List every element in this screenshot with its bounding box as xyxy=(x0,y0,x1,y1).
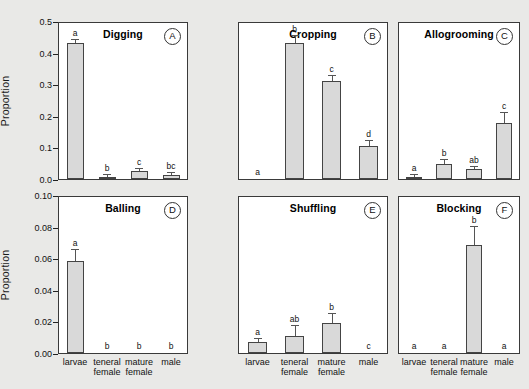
error-bar-cap xyxy=(71,39,79,40)
bar xyxy=(99,177,116,179)
bar xyxy=(436,164,452,179)
y-axis-tick-label: 0.2 xyxy=(39,112,52,122)
y-axis-tick-label: 0.04 xyxy=(34,286,52,296)
y-axis-label: Proportion xyxy=(0,250,11,300)
bar xyxy=(131,171,148,179)
error-bar-cap xyxy=(254,338,262,339)
y-axis-tick-label: 0.10 xyxy=(34,191,52,201)
error-bar xyxy=(171,173,172,175)
significance-letter: ab xyxy=(290,314,299,324)
significance-letter: c xyxy=(502,101,506,111)
error-bar-cap xyxy=(167,172,175,173)
y-axis-tick-label: 0.02 xyxy=(34,317,52,327)
panel-c: AllogroomingCababc xyxy=(398,22,520,180)
bar xyxy=(496,123,512,179)
error-bar-cap xyxy=(328,75,336,76)
y-axis-tick-label: 0.3 xyxy=(39,80,52,90)
error-bar-cap xyxy=(410,174,418,175)
y-axis-tick-label: 0.5 xyxy=(39,17,52,27)
error-bar xyxy=(295,36,296,43)
plot-area-c: ababc xyxy=(399,23,519,179)
significance-letter: a xyxy=(73,238,78,248)
significance-letter: d xyxy=(366,129,371,139)
panel-row-top: Proportion0.00.10.20.30.40.5DiggingAabcb… xyxy=(0,22,529,180)
error-bar xyxy=(474,167,475,169)
error-bar xyxy=(504,113,505,123)
y-axis-tick-label: 0.1 xyxy=(39,143,52,153)
error-bar xyxy=(444,160,445,164)
x-axis-tick-label: larvae xyxy=(402,357,427,367)
significance-letter: c xyxy=(137,157,141,167)
error-bar xyxy=(474,227,475,246)
significance-letter: a xyxy=(442,341,447,351)
error-bar xyxy=(295,326,296,335)
error-bar-cap xyxy=(103,174,111,175)
significance-letter: c xyxy=(329,64,333,74)
significance-letter: b xyxy=(105,341,110,351)
error-bar-cap xyxy=(470,166,478,167)
significance-letter: b xyxy=(137,341,142,351)
y-axis-tick-mark xyxy=(53,354,58,355)
x-axis-tick-label: male xyxy=(494,357,514,367)
y-axis-tick-label: 0.0 xyxy=(39,175,52,185)
x-axis-tick-label: teneralfemale xyxy=(281,357,309,377)
x-axis-tick-label: larvae xyxy=(245,357,270,367)
bar xyxy=(359,146,378,179)
plot-area-a: abcbc xyxy=(59,23,187,179)
bar xyxy=(322,81,341,179)
bar xyxy=(67,261,84,353)
significance-letter: b xyxy=(292,24,297,34)
bar xyxy=(67,43,84,179)
panel-a: DiggingAabcbc xyxy=(58,22,188,180)
y-axis-top: Proportion0.00.10.20.30.40.5 xyxy=(2,22,58,180)
y-axis-tick-label: 0.00 xyxy=(34,349,52,359)
significance-letter: b xyxy=(472,215,477,225)
error-bar-cap xyxy=(135,168,143,169)
error-bar-cap xyxy=(328,313,336,314)
x-axis-tick-label: teneralfemale xyxy=(430,357,458,377)
error-bar-cap xyxy=(440,159,448,160)
significance-letter: b xyxy=(442,148,447,158)
figure-canvas: Proportion0.00.10.20.30.40.5DiggingAabcb… xyxy=(0,0,529,389)
error-bar xyxy=(75,40,76,44)
significance-letter: b xyxy=(169,341,174,351)
error-bar xyxy=(107,175,108,176)
significance-letter: a xyxy=(255,327,260,337)
panel-e: ShufflingEaabbc xyxy=(238,196,388,354)
error-bar xyxy=(332,314,333,323)
error-bar xyxy=(139,169,140,171)
y-axis-tick-label: 0.06 xyxy=(34,254,52,264)
error-bar-cap xyxy=(291,35,299,36)
y-axis-label: Proportion xyxy=(0,76,11,126)
bar xyxy=(322,323,341,353)
x-axis-tick-label: larvae xyxy=(63,357,88,367)
plot-area-e: aabbc xyxy=(239,197,387,353)
error-bar-cap xyxy=(365,140,373,141)
error-bar xyxy=(332,76,333,81)
bar xyxy=(248,342,267,353)
error-bar-cap xyxy=(291,325,299,326)
significance-letter: a xyxy=(412,163,417,173)
significance-letter: a xyxy=(412,341,417,351)
y-axis-tick-mark xyxy=(53,180,58,181)
error-bar xyxy=(75,250,76,261)
y-axis-bottom: Proportion0.000.020.040.060.080.10 xyxy=(2,196,58,354)
significance-letter: c xyxy=(366,341,370,351)
panel-b: CroppingBabcd xyxy=(238,22,388,180)
error-bar xyxy=(414,175,415,176)
plot-area-f: aaba xyxy=(399,197,519,353)
bar xyxy=(406,177,422,179)
error-bar xyxy=(369,141,370,147)
x-axis-tick-label: maturefemale xyxy=(317,357,345,377)
x-axis-tick-label: maturefemale xyxy=(125,357,153,377)
error-bar xyxy=(258,339,259,342)
panel-row-bottom: Proportion0.000.020.040.060.080.10Ballin… xyxy=(0,196,529,354)
bar xyxy=(163,175,180,179)
plot-area-d: abbb xyxy=(59,197,187,353)
error-bar-cap xyxy=(500,112,508,113)
plot-area-b: abcd xyxy=(239,23,387,179)
panel-f: BlockingFaaba xyxy=(398,196,520,354)
x-axis-tick-label: male xyxy=(359,357,379,367)
x-axis-tick-label: teneralfemale xyxy=(93,357,121,377)
y-axis-tick-label: 0.4 xyxy=(39,49,52,59)
